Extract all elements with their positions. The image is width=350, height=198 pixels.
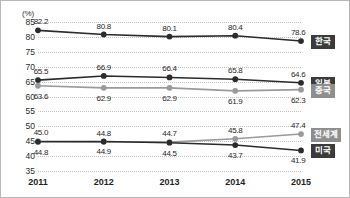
data-value-label: 78.6 (291, 28, 305, 37)
y-axis-tick: 80 (26, 32, 35, 42)
data-value-label: 62.9 (97, 93, 111, 102)
data-value-label: 82.2 (34, 17, 48, 26)
data-point-marker (101, 85, 107, 91)
data-point-marker (101, 139, 107, 145)
data-point-marker (35, 139, 41, 145)
x-axis-tick-labels: 20112012201320142015 (38, 175, 301, 191)
data-value-label: 65.5 (34, 67, 48, 76)
data-value-label: 45.0 (34, 128, 48, 137)
data-value-label: 80.8 (97, 21, 111, 30)
data-point-marker (167, 85, 173, 91)
data-value-label: 66.9 (97, 62, 111, 71)
data-value-label: 44.9 (97, 147, 111, 156)
data-point-marker (232, 136, 238, 142)
data-value-label: 63.6 (34, 91, 48, 100)
data-value-label: 44.7 (162, 129, 176, 138)
data-value-label: 61.9 (228, 96, 242, 105)
data-point-marker (35, 27, 41, 33)
data-value-label: 43.7 (228, 151, 242, 160)
gridline (38, 171, 301, 172)
data-value-label: 44.8 (34, 147, 48, 156)
x-axis-tick: 2014 (225, 177, 245, 187)
legend: 한국일본중국전세계미국 (305, 1, 350, 198)
legend-item-중국[interactable]: 중국 (311, 84, 335, 98)
data-point-marker (298, 80, 304, 86)
data-value-label: 66.4 (162, 64, 176, 73)
data-point-marker (167, 34, 173, 40)
data-point-marker (101, 73, 107, 79)
x-axis-tick: 2012 (94, 177, 114, 187)
data-value-label: 80.1 (162, 23, 176, 32)
line-chart: (%) 8580757065605550454035 82.280.880.18… (0, 0, 350, 198)
data-value-label: 41.9 (291, 156, 305, 165)
data-value-label: 45.8 (228, 125, 242, 134)
data-point-marker (35, 83, 41, 89)
plot-area: 82.280.880.180.478.665.566.966.465.864.6… (38, 22, 301, 171)
y-axis-tick: 75 (26, 47, 35, 57)
data-value-label: 47.4 (291, 121, 305, 130)
x-axis-tick: 2013 (159, 177, 179, 187)
legend-item-전세계[interactable]: 전세계 (311, 128, 341, 142)
data-point-marker (298, 131, 304, 137)
data-point-marker (232, 88, 238, 94)
legend-item-미국[interactable]: 미국 (311, 144, 335, 158)
y-axis-tick: 35 (26, 166, 35, 176)
legend-item-한국[interactable]: 한국 (311, 35, 335, 49)
data-point-marker (101, 32, 107, 38)
data-value-label: 64.6 (291, 69, 305, 78)
data-point-marker (298, 38, 304, 44)
data-point-marker (232, 142, 238, 148)
data-point-marker (298, 148, 304, 154)
y-axis-tick: 65 (26, 77, 35, 87)
data-point-marker (232, 76, 238, 82)
data-point-marker (35, 77, 41, 83)
data-point-marker (167, 75, 173, 81)
y-axis-tick: 45 (26, 136, 35, 146)
data-value-label: 65.8 (228, 66, 242, 75)
data-value-label: 62.3 (291, 95, 305, 104)
data-value-label: 62.9 (162, 93, 176, 102)
data-point-marker (232, 33, 238, 39)
data-point-marker (167, 140, 173, 146)
data-value-label: 80.4 (228, 22, 242, 31)
y-axis-tick: 55 (26, 106, 35, 116)
data-point-marker (298, 87, 304, 93)
data-value-label: 44.5 (162, 148, 176, 157)
x-axis-tick: 2011 (28, 177, 48, 187)
data-value-label: 44.8 (97, 128, 111, 137)
y-axis-tick-labels: 8580757065605550454035 (17, 22, 35, 171)
